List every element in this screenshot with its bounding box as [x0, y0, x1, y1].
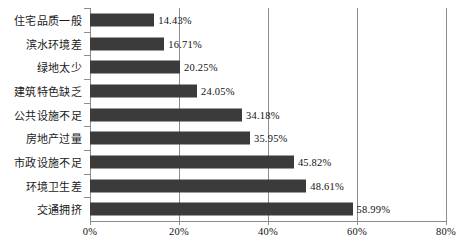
- bar-value-label: 16.71%: [168, 38, 202, 49]
- bar: [90, 37, 164, 50]
- y-axis-tick: [84, 55, 90, 56]
- x-axis-tick: [179, 221, 180, 225]
- bar-value-label: 48.61%: [310, 180, 344, 191]
- category-axis-labels: 住宅品质一般滨水环境差绿地太少建筑特色缺乏公共设施不足房地产过量市政设施不足环境…: [0, 0, 86, 221]
- x-axis-tick-label: 20%: [169, 226, 189, 237]
- x-axis-tick: [90, 221, 91, 225]
- x-axis-tick-label: 40%: [258, 226, 278, 237]
- bar: [90, 84, 197, 97]
- gridline-60pct: [357, 8, 358, 221]
- y-axis-tick: [84, 79, 90, 80]
- bar-value-label: 14.43%: [158, 14, 192, 25]
- category-label: 市政设施不足: [14, 154, 82, 170]
- bar-chart: 住宅品质一般滨水环境差绿地太少建筑特色缺乏公共设施不足房地产过量市政设施不足环境…: [0, 0, 472, 250]
- x-axis-tick-label: 80%: [436, 226, 456, 237]
- y-axis-tick: [84, 174, 90, 175]
- category-label: 住宅品质一般: [14, 12, 82, 28]
- y-axis-tick: [84, 197, 90, 198]
- bar-value-label: 35.95%: [254, 133, 288, 144]
- bar-value-label: 24.05%: [201, 85, 235, 96]
- category-label: 交通拥挤: [37, 201, 82, 217]
- category-label: 绿地太少: [37, 59, 82, 75]
- bar: [90, 179, 306, 192]
- category-label: 环境卫生差: [26, 178, 83, 194]
- y-axis-tick: [84, 32, 90, 33]
- y-axis-tick: [84, 126, 90, 127]
- y-axis-tick: [84, 8, 90, 9]
- x-axis-tick: [357, 221, 358, 225]
- gridline-80pct: [446, 8, 447, 221]
- x-axis-tick: [268, 221, 269, 225]
- bar-value-label: 45.82%: [298, 156, 332, 167]
- bar-value-label: 20.25%: [184, 62, 218, 73]
- bar-value-label: 34.18%: [246, 109, 280, 120]
- plot-area: 14.43%16.71%20.25%24.05%34.18%35.95%45.8…: [90, 8, 446, 221]
- category-label: 公共设施不足: [14, 107, 82, 123]
- bar: [90, 203, 353, 216]
- bar: [90, 108, 242, 121]
- x-axis-tick: [446, 221, 447, 225]
- category-label: 房地产过量: [26, 130, 83, 146]
- x-axis-labels: 0%20%40%60%80%: [0, 226, 472, 246]
- category-label: 滨水环境差: [26, 36, 83, 52]
- y-axis-tick: [84, 103, 90, 104]
- x-axis-tick-label: 0%: [83, 226, 97, 237]
- bar-value-label: 58.99%: [357, 204, 391, 215]
- x-axis-tick-label: 60%: [347, 226, 367, 237]
- bar: [90, 155, 294, 168]
- bar: [90, 132, 250, 145]
- y-axis-tick: [84, 150, 90, 151]
- bar: [90, 13, 154, 26]
- bar: [90, 61, 180, 74]
- category-label: 建筑特色缺乏: [14, 83, 82, 99]
